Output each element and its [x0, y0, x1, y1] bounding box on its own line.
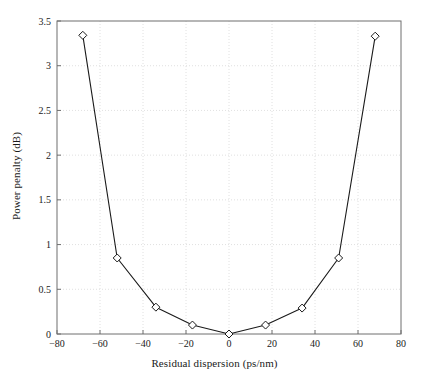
y-tick-label: 0.5: [39, 284, 52, 295]
x-tick-label: −20: [178, 338, 194, 349]
grid-lines: [57, 21, 401, 334]
x-tick-label: 20: [267, 338, 277, 349]
data-point-marker: [79, 31, 87, 39]
chart-figure: −80−60−40−2002040608000.511.522.533.5 Re…: [0, 0, 429, 387]
y-tick-label: 2: [46, 150, 51, 161]
data-point-marker: [298, 304, 306, 312]
y-axis-title: Power penalty (dB): [10, 111, 22, 241]
y-tick-label: 3.5: [39, 16, 52, 27]
y-tick-label: 3: [46, 60, 51, 71]
data-point-marker: [371, 32, 379, 40]
x-tick-label: −80: [49, 338, 65, 349]
data-point-marker: [262, 321, 270, 329]
data-point-marker: [188, 321, 196, 329]
data-point-marker: [225, 330, 233, 338]
y-tick-label: 2.5: [39, 105, 52, 116]
x-axis-title: Residual dispersion (ps/nm): [0, 357, 429, 369]
y-tick-label: 1.5: [39, 194, 52, 205]
data-point-marker: [335, 254, 343, 262]
x-tick-label: 0: [227, 338, 232, 349]
x-tick-label: 80: [396, 338, 406, 349]
x-tick-label: −60: [92, 338, 108, 349]
x-tick-label: −40: [135, 338, 151, 349]
y-tick-label: 0: [46, 329, 51, 340]
x-tick-label: 60: [353, 338, 363, 349]
power-penalty-line-chart: −80−60−40−2002040608000.511.522.533.5: [0, 0, 429, 387]
x-tick-label: 40: [310, 338, 320, 349]
y-tick-label: 1: [46, 239, 51, 250]
